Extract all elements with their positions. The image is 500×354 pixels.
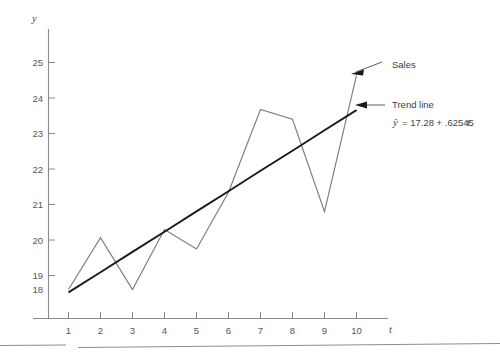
y-tick-label: 18 [32,284,43,295]
x-tick-label: 8 [290,325,295,336]
x-axis-title: t [389,324,393,335]
trend-series-line [69,110,357,292]
sales-leader-line [356,62,382,72]
x-axis-tick-labels: 1 2 3 4 5 6 7 8 9 10 [66,325,362,336]
footer-rule-short [0,345,66,346]
x-tick-label: 6 [226,325,231,336]
y-tick-label: 25 [32,57,43,68]
x-tick-label: 9 [322,325,327,336]
chart-figure: 25 24 23 22 21 20 19 18 y 1 2 [0,0,500,354]
y-tick-label: 21 [32,199,43,210]
trend-annotation-label: Trend line [392,99,434,110]
y-axis-title: y [31,13,37,24]
y-axis-ticks [49,63,56,290]
x-tick-label: 7 [258,325,263,336]
equation-body: = 17.28 + .62545 [402,117,474,128]
sales-series-line [69,75,357,289]
y-tick-label: 20 [32,235,43,246]
sales-annotation: Sales [351,59,416,76]
y-tick-label: 24 [32,93,43,104]
x-tick-label: 1 [66,325,71,336]
trend-annotation: Trend line ŷ = 17.28 + .62545 t [355,99,474,128]
equation-yhat: ŷ [392,117,398,128]
x-tick-label: 2 [98,325,103,336]
y-axis-tick-labels: 25 24 23 22 21 20 19 18 [32,57,43,295]
x-tick-label: 4 [162,325,167,336]
trend-arrowhead-icon [355,102,367,109]
x-axis-ticks [69,312,357,319]
sales-annotation-label: Sales [392,59,416,70]
y-tick-label: 22 [32,164,43,175]
footer-rule-long [78,344,500,348]
x-tick-label: 10 [351,325,362,336]
x-tick-label: 5 [194,325,199,336]
trend-equation: ŷ = 17.28 + .62545 t [392,117,474,128]
x-tick-label: 3 [130,325,135,336]
y-tick-label: 19 [32,270,43,281]
y-tick-label: 23 [32,128,43,139]
trend-line-chart: 25 24 23 22 21 20 19 18 y 1 2 [0,0,500,354]
sales-arrowhead-icon [351,70,364,76]
